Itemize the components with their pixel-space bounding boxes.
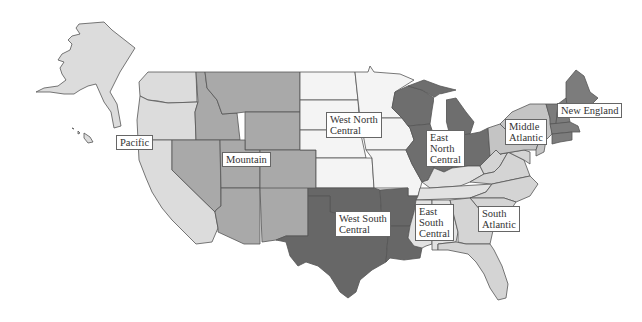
label-mountain: Mountain: [222, 152, 271, 167]
label-middle-atlantic: Middle Atlantic: [505, 119, 547, 145]
state-connecticut-rhode-island[interactable]: [552, 132, 572, 144]
state-hawaii[interactable]: [72, 128, 93, 143]
label-east-south-central: East South Central: [415, 204, 454, 241]
state-massachusetts[interactable]: [550, 122, 580, 134]
label-west-north-central: West North Central: [326, 112, 382, 138]
state-oregon[interactable]: [137, 96, 198, 140]
state-alaska[interactable]: [36, 22, 135, 128]
label-pacific: Pacific: [116, 135, 153, 150]
state-kansas[interactable]: [316, 158, 374, 188]
state-washington[interactable]: [139, 72, 197, 103]
label-south-atlantic: South Atlantic: [478, 206, 520, 232]
state-florida[interactable]: [438, 242, 508, 300]
label-east-north-central: East North Central: [426, 130, 465, 167]
state-new-mexico[interactable]: [260, 188, 308, 242]
region-pacific[interactable]: [36, 22, 218, 244]
state-north-dakota[interactable]: [300, 72, 358, 100]
us-census-divisions-map: [0, 0, 642, 322]
label-new-england: New England: [557, 103, 622, 118]
label-west-south-central: West South Central: [335, 211, 391, 237]
lake-michigan: [434, 94, 446, 130]
state-wyoming[interactable]: [245, 112, 300, 150]
state-arizona[interactable]: [215, 188, 260, 244]
